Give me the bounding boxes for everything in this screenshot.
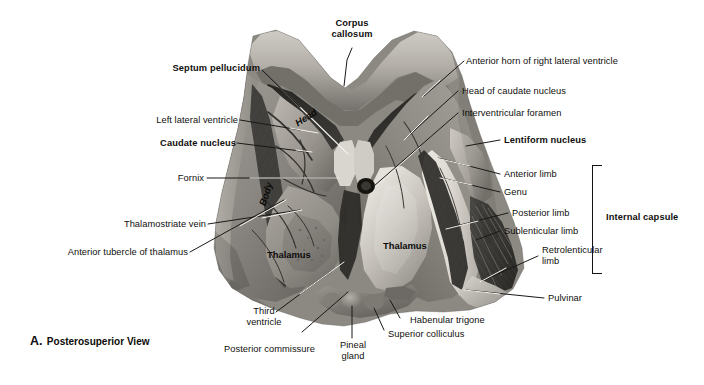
anatomy-figure: Corpus callosum Septum pellucidum Left l… (0, 0, 704, 385)
label-corpus-callosum-line2: callosum (316, 29, 388, 40)
label-sublenticular-limb: Sublenticular limb (504, 226, 578, 237)
fornix-column-right (354, 140, 374, 184)
label-third-ventricle-line2: ventricle (232, 317, 296, 328)
label-anterior-limb: Anterior limb (504, 169, 557, 180)
caption-text: Posterosuperior View (47, 336, 150, 347)
label-septum-pellucidum: Septum pellucidum (112, 63, 260, 74)
fornix-column-left (334, 140, 356, 186)
label-anterior-tubercle-of-thalamus: Anterior tubercle of thalamus (38, 247, 188, 258)
label-anterior-horn-of-right-lateral-ventricle: Anterior horn of right lateral ventricle (466, 56, 618, 67)
label-third-ventricle-line1: Third (232, 306, 296, 317)
label-posterior-limb: Posterior limb (512, 208, 570, 219)
label-left-lateral-ventricle: Left lateral ventricle (110, 115, 238, 126)
label-caudate-nucleus: Caudate nucleus (112, 138, 236, 149)
label-thalamostriate-vein: Thalamostriate vein (102, 219, 206, 230)
caption-letter: A. (30, 334, 42, 348)
label-internal-capsule: Internal capsule (606, 212, 678, 223)
label-pineal-gland: Pineal gland (330, 340, 376, 362)
label-genu: Genu (504, 187, 527, 198)
label-fornix: Fornix (152, 173, 204, 184)
label-superior-colliculus: Superior colliculus (388, 329, 464, 340)
leader-corpus-callosum (344, 48, 352, 86)
label-interventricular-foramen: Interventricular foramen (462, 108, 561, 119)
label-posterior-commissure: Posterior commissure (224, 344, 315, 355)
label-corpus-callosum-line1: Corpus (316, 18, 388, 29)
figure-caption: A. Posterosuperior View (30, 331, 150, 349)
onimage-label-thalamus-left: Thalamus (267, 249, 311, 260)
label-head-of-caudate-nucleus: Head of caudate nucleus (462, 86, 566, 97)
label-third-ventricle: Third ventricle (232, 306, 296, 328)
label-lentiform-nucleus: Lentiform nucleus (504, 135, 586, 146)
internal-capsule-bracket (592, 165, 602, 274)
label-pulvinar: Pulvinar (548, 293, 582, 304)
label-pineal-gland-line1: Pineal (330, 340, 376, 351)
onimage-label-thalamus-right: Thalamus (383, 240, 427, 251)
label-corpus-callosum: Corpus callosum (316, 18, 388, 40)
label-pineal-gland-line2: gland (330, 351, 376, 362)
label-habenular-trigone: Habenular trigone (410, 315, 485, 326)
